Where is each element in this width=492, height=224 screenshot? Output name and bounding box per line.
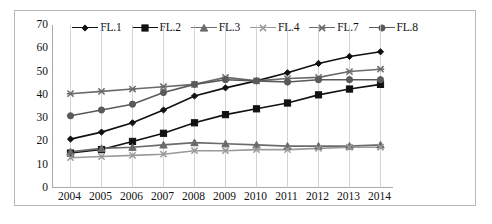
y-axis-labels: 010203040506070 [22, 25, 48, 188]
data-point-circle-marker [67, 113, 73, 119]
data-point-diamond-marker [222, 85, 228, 91]
data-point-square-marker [160, 130, 166, 136]
x-axis-tick-label: 2014 [368, 191, 391, 203]
plot-area-wrapper: 010203040506070 [52, 25, 393, 188]
data-point-diamond-marker [129, 120, 135, 126]
x-axis-tick-label: 2011 [275, 191, 298, 203]
data-point-circle-marker [222, 77, 228, 83]
data-point-diamond-marker [98, 129, 104, 135]
data-point-circle-marker [377, 77, 383, 83]
y-axis-tick-label: 0 [42, 182, 48, 194]
data-point-diamond-marker [377, 49, 383, 55]
data-point-diamond-marker [191, 93, 197, 99]
x-axis-tick-label: 2010 [244, 191, 267, 203]
data-point-circle-marker [191, 81, 197, 87]
data-point-square-marker [284, 100, 290, 106]
data-point-circle-marker [129, 101, 135, 107]
y-axis-tick-label: 70 [37, 19, 49, 31]
data-point-square-marker [253, 106, 259, 112]
data-point-circle-marker [98, 107, 104, 113]
data-point-square-marker [222, 112, 228, 118]
plot-area [52, 25, 393, 188]
data-point-circle-marker [253, 78, 259, 84]
y-axis-tick-label: 20 [37, 136, 49, 148]
data-point-diamond-marker [284, 70, 290, 76]
data-point-diamond-marker [315, 60, 321, 66]
x-axis-tick-label: 2006 [120, 191, 143, 203]
x-axis-tick-label: 2007 [151, 191, 174, 203]
x-axis-tick-label: 2005 [89, 191, 112, 203]
x-axis-tick-label: 2009 [213, 191, 236, 203]
y-axis-tick-label: 40 [37, 89, 49, 101]
chart-frame: FL.1FL.2FL.3FL.4FL.7FL.8 010203040506070… [14, 10, 476, 206]
y-axis-tick-label: 10 [37, 159, 49, 171]
y-axis-tick-label: 50 [37, 66, 49, 78]
data-point-circle-marker [160, 89, 166, 95]
data-point-diamond-marker [67, 136, 73, 142]
data-point-diamond-marker [346, 53, 352, 59]
x-axis-tick-label: 2012 [306, 191, 329, 203]
data-point-circle-marker [346, 77, 352, 83]
y-axis-tick-label: 30 [37, 112, 49, 124]
x-axis-tick-label: 2008 [182, 191, 205, 203]
x-axis-labels: 2004200520062007200820092010201120122013… [52, 191, 393, 209]
legend-item-label: FL.8 [397, 21, 418, 33]
x-axis-tick-label: 2013 [337, 191, 360, 203]
data-point-circle-marker [284, 79, 290, 85]
line-chart-svg [53, 25, 394, 188]
data-point-square-marker [191, 120, 197, 126]
data-point-diamond-marker [160, 107, 166, 113]
y-axis-tick-label: 60 [37, 43, 49, 55]
x-axis-tick-label: 2004 [58, 191, 81, 203]
data-point-square-marker [346, 86, 352, 92]
data-point-square-marker [315, 92, 321, 98]
data-point-circle-marker [315, 77, 321, 83]
